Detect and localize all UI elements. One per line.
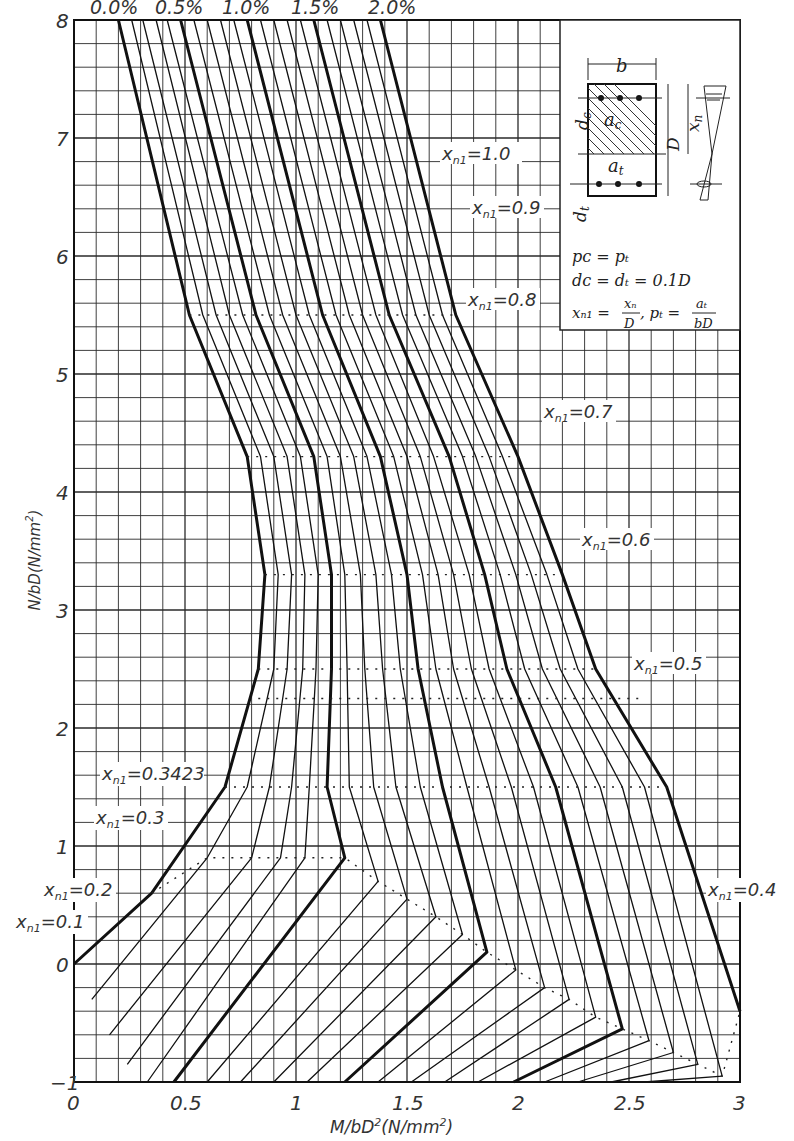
svg-text:xₙ: xₙ — [624, 296, 637, 311]
svg-text:1.5: 1.5 — [392, 1091, 424, 1115]
percentage-labels: 0.0% 0.5% 1.0% 1.5% 2.0% — [90, 0, 416, 18]
section-inset: b D xn ac at dc dt pᴄ = pₜ dᴄ = dₜ = 0.1… — [510, 20, 740, 331]
x-axis-ticks: 0 0.5 1 1.5 2 2.5 3 — [67, 1091, 746, 1115]
svg-text:0.5: 0.5 — [170, 1091, 202, 1115]
svg-text:1.5%: 1.5% — [291, 0, 339, 18]
svg-text:3: 3 — [56, 599, 69, 623]
svg-text:xn1=0.1: xn1=0.1 — [15, 911, 84, 935]
svg-text:xn1=0.8: xn1=0.8 — [467, 289, 536, 313]
curve-0.7% — [207, 20, 407, 1082]
svg-text:, pₜ =: , pₜ = — [640, 304, 680, 322]
svg-text:4: 4 — [56, 481, 69, 505]
curve-1.4% — [300, 20, 595, 1082]
svg-text:pᴄ = pₜ: pᴄ = pₜ — [572, 247, 629, 266]
curve-1.0% — [247, 20, 487, 1082]
interaction-diagram: b D xn ac at dc dt pᴄ = pₜ dᴄ = dₜ = 0.1… — [0, 0, 794, 1141]
svg-text:xn1=0.7: xn1=0.7 — [543, 401, 613, 425]
curve-0.3% — [127, 20, 305, 1064]
svg-text:1: 1 — [290, 1091, 303, 1115]
svg-text:xn1=0.3: xn1=0.3 — [95, 807, 164, 831]
svg-text:D: D — [663, 137, 683, 152]
svg-text:0: 0 — [67, 1091, 80, 1115]
svg-text:xn1=0.9: xn1=0.9 — [471, 197, 540, 221]
svg-text:6: 6 — [56, 245, 69, 269]
svg-text:xₙ₁ =: xₙ₁ = — [572, 304, 610, 322]
svg-text:2: 2 — [512, 1091, 525, 1115]
xn1-label-0.2: xn1=0.2 — [42, 878, 116, 903]
svg-text:xn1=0.4: xn1=0.4 — [707, 879, 776, 903]
svg-text:xn1=0.2: xn1=0.2 — [43, 879, 112, 903]
svg-text:8: 8 — [56, 9, 69, 33]
svg-text:1: 1 — [56, 835, 69, 859]
xn1-label-0.3423: xn1=0.3423 — [100, 762, 205, 787]
xn1-label-0.3: xn1=0.3 — [94, 806, 168, 831]
svg-text:xn1=0.5: xn1=0.5 — [633, 653, 702, 677]
curve-0.9% — [234, 20, 463, 1082]
xn1-label-0.9: xn1=0.9 — [470, 196, 544, 221]
svg-text:0.0%: 0.0% — [90, 0, 138, 18]
xn1-label-1.0: xn1=1.0 — [440, 142, 522, 167]
svg-text:bD: bD — [694, 316, 713, 331]
svg-text:2.0%: 2.0% — [368, 0, 416, 18]
svg-text:0: 0 — [56, 953, 69, 977]
svg-text:1.0%: 1.0% — [222, 0, 270, 18]
svg-text:xn1=0.6: xn1=0.6 — [581, 529, 650, 553]
y-axis-label: N/bD(N/mm2) — [24, 510, 44, 611]
xn1-label-0.5: xn1=0.5 — [632, 652, 706, 677]
svg-text:2.5: 2.5 — [614, 1091, 646, 1115]
svg-text:5: 5 — [56, 363, 69, 387]
svg-text:0.5%: 0.5% — [155, 0, 203, 18]
svg-text:b: b — [616, 55, 628, 76]
curve-0.2% — [110, 20, 292, 1035]
x-axis-label: M/bD2(N/mm2) — [330, 1116, 453, 1137]
xn1-label-0.4: xn1=0.4 — [706, 878, 792, 903]
xn1-label-0.7: xn1=0.7 — [542, 400, 616, 425]
svg-text:aₜ: aₜ — [696, 296, 708, 311]
xn1-label-0.8: xn1=0.8 — [466, 288, 540, 313]
xn1-label-0.6: xn1=0.6 — [580, 528, 654, 553]
xn1-dotted-lines — [152, 315, 740, 1076]
svg-text:2: 2 — [56, 717, 69, 741]
svg-text:3: 3 — [733, 1091, 746, 1115]
xn1-label-0.1: xn1=0.1 — [14, 910, 88, 935]
svg-text:xn1=1.0: xn1=1.0 — [441, 143, 510, 167]
svg-text:D: D — [623, 316, 635, 331]
svg-text:7: 7 — [56, 127, 69, 151]
svg-text:dᴄ = dₜ = 0.1D: dᴄ = dₜ = 0.1D — [572, 271, 691, 290]
